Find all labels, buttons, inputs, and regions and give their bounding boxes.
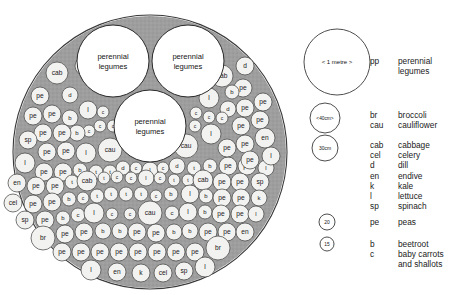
plant-label: pe — [133, 228, 141, 236]
plant-label: pe — [153, 248, 161, 256]
perennial-legume-label: legumes — [99, 62, 128, 71]
plant-label: br — [215, 244, 222, 251]
legend-plant-name: lettuce — [398, 191, 422, 201]
legend-abbreviation: en — [370, 171, 379, 181]
plant-circle: c — [124, 208, 136, 220]
scale-circle-twenty: 20 — [319, 214, 335, 230]
plant-label: cab — [198, 176, 209, 183]
plant-label: pe — [134, 248, 142, 256]
plant-label: cab — [52, 69, 63, 76]
plant-circle: l — [201, 124, 221, 144]
plant-circle: pe — [251, 111, 269, 129]
plant-label: sp — [181, 267, 188, 275]
plant-label: pe — [58, 248, 66, 256]
plant-label: pe — [217, 210, 225, 218]
plant-circle: c — [165, 206, 179, 220]
plant-label: pe — [236, 210, 244, 218]
plant-circle: en — [236, 223, 254, 241]
plant-label: c — [77, 212, 80, 218]
plant-circle: sp — [251, 173, 269, 191]
plant-label: en — [113, 268, 121, 275]
plant-label: cau — [181, 142, 192, 149]
legend-plant-name: and shallots — [398, 259, 442, 269]
plant-circle: en — [8, 174, 26, 192]
legend-abbreviation: pp — [370, 56, 379, 66]
plant-label: pe — [32, 182, 40, 190]
plant-circle: c — [154, 172, 166, 184]
plant-circle: cel — [154, 264, 172, 282]
plant-circle: pe — [56, 225, 74, 243]
plant-label: pe — [41, 216, 49, 224]
plant-circle: l — [76, 143, 96, 163]
plant-circle: t — [134, 187, 148, 201]
plant-circle: b — [225, 85, 239, 99]
plant-label: br — [40, 234, 47, 241]
plant-circle: pe — [219, 157, 237, 175]
plant-circle: t — [168, 174, 180, 186]
plant-circle: pe — [254, 93, 272, 111]
legend-abbreviation: br — [370, 110, 377, 120]
plant-circle: pe — [231, 173, 249, 191]
plant-label: en — [261, 134, 269, 141]
legend-plant-name: kale — [398, 181, 413, 191]
plant-label: d — [68, 92, 71, 98]
plant-label: pe — [39, 129, 47, 137]
legend-plant-name: cabbage — [398, 140, 430, 150]
plant-circle: sp — [19, 131, 37, 149]
plant-label: d — [243, 62, 247, 69]
plant-circle: c — [125, 172, 137, 184]
plant-circle: t — [90, 189, 104, 203]
plant-label: cab — [82, 177, 93, 184]
plant-circle: br — [206, 236, 230, 260]
plant-label: pe — [246, 156, 254, 164]
plant-label: pe — [223, 228, 231, 236]
plant-label: c — [171, 210, 174, 216]
plant-circle: d — [169, 158, 185, 174]
legend-plant-name: peas — [398, 217, 416, 227]
plant-label: pe — [172, 248, 180, 256]
plant-circle: pe — [213, 173, 231, 191]
legend-plant-name: perennial — [398, 56, 432, 66]
plant-label: pe — [223, 144, 231, 152]
legend-abbreviation: l — [370, 191, 372, 201]
perennial-legume-label: perennial — [134, 117, 166, 126]
plant-circle: pe — [43, 193, 61, 211]
plant-circle: pe — [38, 143, 56, 161]
plant-label: pe — [58, 129, 66, 137]
plant-circle: pe — [110, 243, 128, 261]
plant-circle: pe — [27, 177, 45, 195]
plant-label: pe — [77, 248, 85, 256]
plant-circle: b — [62, 192, 76, 206]
plant-circle: pe — [72, 243, 90, 261]
plant-circle: pe — [128, 223, 146, 241]
plant-circle: pe — [53, 124, 71, 142]
plant-circle: pe — [218, 139, 236, 157]
plant-circle: t — [98, 172, 110, 184]
plant-label: sp — [257, 178, 264, 186]
plant-label: sp — [22, 216, 29, 224]
plant-circle: c — [203, 111, 215, 123]
plant-circle: c — [77, 192, 89, 204]
plant-label: pe — [237, 194, 245, 202]
plant-label: pe — [241, 140, 249, 148]
plant-circle: pe — [147, 224, 165, 242]
plant-label: pe — [61, 230, 69, 238]
plant-label: pe — [48, 198, 56, 206]
plant-label: pe — [241, 104, 249, 112]
plant-label: en — [13, 179, 21, 186]
plant-label: cel — [159, 269, 168, 276]
plant-circle: b — [62, 110, 78, 126]
plant-circle: pe — [236, 135, 254, 153]
plant-circle: t — [182, 174, 194, 186]
plant-circle: l — [81, 260, 101, 280]
plant-circle: c — [189, 120, 201, 132]
plant-circle: l — [138, 170, 154, 186]
plant-circle: pe — [129, 243, 147, 261]
scale-circle-label: 30cm — [319, 145, 331, 151]
plant-label: pe — [239, 84, 247, 92]
plant-label: d — [226, 106, 229, 112]
legend-plant-name: dill — [398, 160, 408, 170]
plant-circle: b — [56, 211, 70, 225]
garden-plan-figure: cabdpepepeblccccbpepesppepelcaulpepebttd… — [0, 0, 475, 295]
scale-circle-metre: < 1 metre > — [304, 29, 370, 95]
